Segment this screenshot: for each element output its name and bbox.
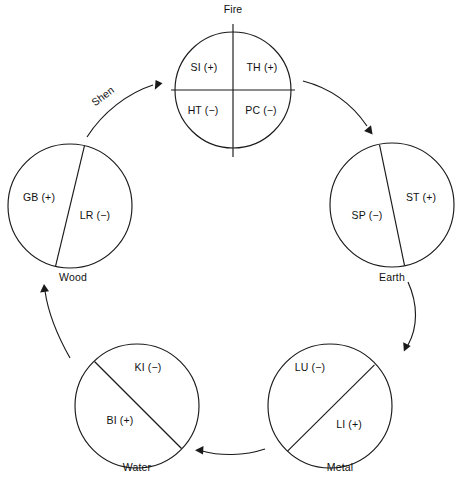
- arrow-earth-to-metal: [403, 282, 415, 351]
- cycle-label-shen: Shen: [89, 83, 116, 108]
- phase-group-wood: GB (+) LR (−) Wood: [8, 144, 132, 283]
- phase-group-earth: SP (−) ST (+) Earth: [330, 143, 454, 283]
- metal-chord-divider: [288, 365, 375, 451]
- phase-label-fire: Fire: [224, 3, 243, 15]
- organ-label-sp: SP (−): [352, 209, 383, 221]
- water-chord-divider: [95, 362, 182, 449]
- arrow-metal-to-water-path: [202, 449, 265, 455]
- organ-label-gb: GB (+): [23, 191, 55, 203]
- arrow-metal-to-water: [195, 446, 265, 455]
- arrow-earth-to-metal-path: [408, 282, 416, 345]
- arrow-metal-to-water-head: [195, 446, 204, 455]
- organ-label-lr: LR (−): [80, 209, 110, 221]
- organ-label-bi: BI (+): [107, 414, 134, 426]
- arrow-fire-to-earth: [303, 81, 373, 134]
- phase-label-earth: Earth: [379, 271, 405, 283]
- arrow-wood-to-fire: Shen: [87, 80, 163, 137]
- phase-group-metal: LU (−) LI (+) Metal: [268, 344, 392, 473]
- arrow-water-to-wood-head: [40, 284, 49, 292]
- organ-label-ki: KI (−): [135, 361, 162, 373]
- arrow-water-to-wood-path: [45, 291, 70, 358]
- organ-label-th: TH (+): [247, 61, 278, 73]
- phase-label-wood: Wood: [59, 271, 87, 283]
- arrow-earth-to-metal-head: [403, 342, 411, 351]
- organ-label-st: ST (+): [406, 191, 436, 203]
- organ-label-pc: PC (−): [245, 104, 277, 116]
- organ-label-si: SI (+): [191, 61, 218, 73]
- earth-chord-divider: [380, 145, 405, 266]
- five-phases-diagram: SI (+) TH (+) HT (−) PC (−) Fire SP (−) …: [0, 0, 463, 484]
- arrow-wood-to-fire-head: [155, 80, 163, 90]
- organ-label-lu: LU (−): [295, 361, 325, 373]
- metal-circle-outline: [268, 344, 392, 468]
- phase-label-water: Water: [123, 461, 152, 473]
- diagram-canvas: SI (+) TH (+) HT (−) PC (−) Fire SP (−) …: [0, 0, 463, 484]
- phase-label-metal: Metal: [327, 461, 353, 473]
- arrow-fire-to-earth-path: [303, 81, 367, 126]
- phase-group-water: KI (−) BI (+) Water: [75, 344, 199, 473]
- wood-chord-divider: [56, 146, 85, 267]
- arrow-water-to-wood: [40, 284, 70, 358]
- organ-label-ht: HT (−): [188, 104, 219, 116]
- organ-label-li: LI (+): [336, 418, 362, 430]
- arrow-fire-to-earth-head: [364, 125, 373, 134]
- phase-group-fire: SI (+) TH (+) HT (−) PC (−) Fire: [171, 3, 295, 157]
